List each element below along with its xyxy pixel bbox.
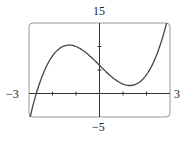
x-max-label: 3	[174, 87, 180, 102]
y-min-label: −5	[92, 120, 105, 135]
x-min-label: −3	[6, 87, 19, 102]
y-max-label: 15	[93, 4, 105, 19]
graph: 15 −5 −3 3	[0, 0, 189, 142]
